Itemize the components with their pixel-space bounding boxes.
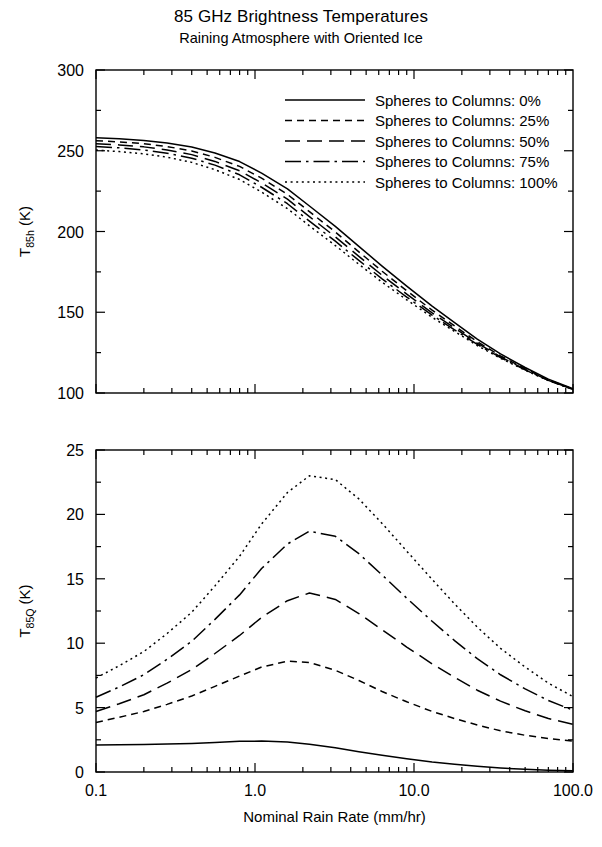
y-axis-label-base: T: [16, 628, 33, 637]
y-ticklabel-top: 250: [57, 143, 84, 160]
legend-label-4: Spheres to Columns: 100%: [375, 174, 558, 191]
y-axis-label-bottom: T85Q (K): [16, 584, 36, 637]
y-axis-label-sub: 85Q: [24, 609, 36, 629]
legend-label-0: Spheres to Columns: 0%: [375, 92, 541, 109]
y-ticklabel-bottom: 5: [75, 700, 84, 717]
y-ticklabel-top: 100: [57, 385, 84, 402]
figure-root: 85 GHz Brightness Temperatures Raining A…: [0, 0, 602, 847]
plot-canvas: 100150200250300T85h (K)0510152025T85Q (K…: [0, 0, 602, 847]
y-axis-label-top: T85h (K): [16, 206, 36, 257]
legend-label-2: Spheres to Columns: 50%: [375, 133, 549, 150]
x-axis: 0.11.010.0100.0Nominal Rain Rate (mm/hr): [85, 782, 593, 825]
y-axis-label-sub: 85h: [24, 230, 36, 248]
curve-bottom-4: [96, 476, 573, 697]
x-ticklabel: 0.1: [85, 782, 107, 799]
y-axis-label-unit: (K): [16, 584, 33, 608]
legend-label-3: Spheres to Columns: 75%: [375, 153, 549, 170]
panel-bottom-border: [96, 450, 573, 772]
x-axis-label: Nominal Rain Rate (mm/hr): [243, 808, 426, 825]
legend: Spheres to Columns: 0%Spheres to Columns…: [285, 92, 558, 191]
x-ticklabel: 10.0: [398, 782, 429, 799]
legend-label-1: Spheres to Columns: 25%: [375, 112, 549, 129]
curve-bottom-0: [96, 741, 573, 771]
y-ticklabel-bottom: 10: [66, 635, 84, 652]
y-ticklabel-bottom: 15: [66, 571, 84, 588]
y-ticklabel-bottom: 20: [66, 506, 84, 523]
y-axis-label-unit: (K): [16, 206, 33, 230]
x-ticklabel: 1.0: [244, 782, 266, 799]
y-ticklabel-bottom: 25: [66, 442, 84, 459]
y-ticklabel-top: 200: [57, 224, 84, 241]
y-axis-label-base: T: [16, 248, 33, 257]
panel-bottom: 0510152025T85Q (K): [16, 442, 573, 781]
y-ticklabel-top: 300: [57, 62, 84, 79]
y-ticklabel-bottom: 0: [75, 764, 84, 781]
x-ticklabel: 100.0: [553, 782, 593, 799]
y-ticklabel-top: 150: [57, 304, 84, 321]
